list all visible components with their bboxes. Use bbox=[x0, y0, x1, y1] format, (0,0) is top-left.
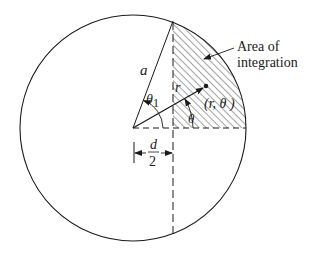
label-a: a bbox=[140, 62, 148, 78]
label-integration: integration bbox=[237, 55, 298, 70]
circle-integration-diagram: a θ1 r (r, θ ) θ d 2 Area of integration bbox=[0, 0, 317, 255]
label-theta1-sub: 1 bbox=[153, 96, 159, 110]
radius-line-a bbox=[133, 21, 173, 128]
label-2: 2 bbox=[149, 154, 156, 169]
label-point-r-theta: (r, θ ) bbox=[204, 96, 235, 112]
label-d: d bbox=[150, 137, 158, 152]
label-area-of: Area of bbox=[237, 39, 280, 54]
label-theta: θ bbox=[188, 111, 195, 126]
label-theta1: θ1 bbox=[146, 92, 159, 110]
label-r: r bbox=[175, 80, 181, 95]
point-r-theta bbox=[204, 84, 209, 89]
